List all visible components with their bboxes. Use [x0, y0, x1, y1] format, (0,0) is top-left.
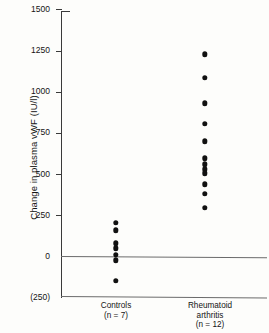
y-tick-mark: [56, 9, 62, 10]
data-point: [113, 220, 118, 225]
y-tick-mark: [56, 51, 62, 52]
data-point: [113, 246, 118, 251]
data-point: [202, 52, 207, 57]
y-tick-mark: [56, 215, 62, 216]
data-point: [202, 75, 207, 80]
data-point: [202, 162, 207, 167]
data-point: [202, 139, 207, 144]
data-point: [202, 121, 207, 126]
x-axis-group-label-rheumatoid-arthritis: Rheumatoid arthritis (n = 12): [165, 301, 255, 330]
x-axis-group-label-controls: Controls (n = 7): [78, 301, 154, 320]
scatter-plot-figure: Change in plasma vWF (IU/l) 150012501000…: [0, 0, 269, 333]
data-point: [202, 191, 207, 196]
data-point: [113, 228, 118, 233]
plot-area: [0, 0, 269, 333]
data-point: [113, 278, 118, 283]
y-tick-mark: [56, 92, 62, 93]
data-point: [113, 258, 118, 263]
data-point: [202, 156, 207, 161]
y-tick-mark: [56, 133, 62, 134]
data-point: [202, 205, 207, 210]
data-point: [202, 182, 207, 187]
data-point: [202, 101, 207, 106]
data-point: [113, 252, 118, 257]
data-point: [202, 171, 207, 176]
y-tick-mark: [56, 174, 62, 175]
